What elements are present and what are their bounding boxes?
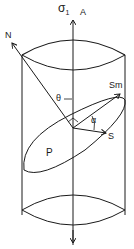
shear-label: S <box>108 132 114 141</box>
alpha-label: α <box>91 116 96 125</box>
diagram-canvas: σ1 A N θ Sm α S P <box>0 0 134 249</box>
max-shear-vector <box>73 94 120 128</box>
cylinder-diagram <box>0 0 134 249</box>
normal-label: N <box>5 31 12 40</box>
normal-vector <box>12 43 73 128</box>
sigma-label: σ1 <box>58 2 69 16</box>
plane-label: P <box>46 148 53 158</box>
axis-label: A <box>80 8 86 17</box>
max-shear-label: Sm <box>109 81 123 90</box>
shear-vector <box>73 128 106 133</box>
theta-label: θ <box>56 94 61 103</box>
